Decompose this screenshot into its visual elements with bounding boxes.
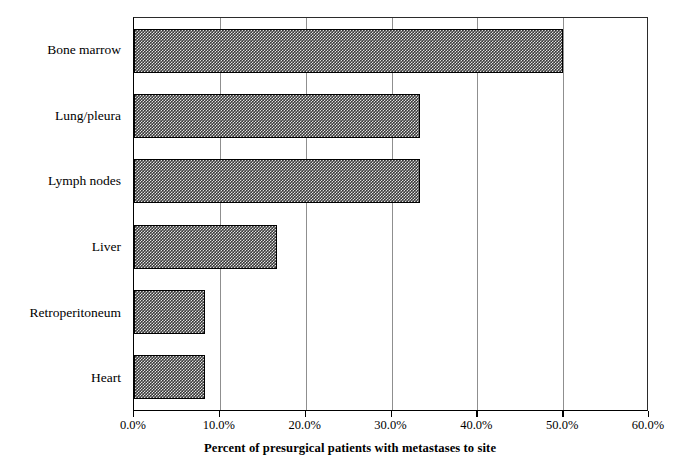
category-slot: Lymph nodes (0, 148, 128, 214)
category-label-retroperitoneum: Retroperitoneum (30, 306, 121, 320)
bar-liver[interactable] (134, 225, 277, 269)
axis-tick-label: 50.0% (546, 419, 578, 432)
category-label-heart: Heart (91, 371, 121, 385)
category-slot: Lung/pleura (0, 83, 128, 149)
axis-tick-label: 0.0% (120, 419, 146, 432)
category-slot: Bone marrow (0, 17, 128, 83)
category-label-lymph-nodes: Lymph nodes (48, 174, 121, 188)
axis-tick (219, 411, 220, 417)
axis-tick (476, 411, 477, 417)
axis-tick-label: 10.0% (203, 419, 235, 432)
bar-slot (134, 345, 647, 410)
bar-lung-pleura[interactable] (134, 94, 420, 138)
axis-tick (391, 411, 392, 417)
x-axis-title: Percent of presurgical patients with met… (0, 441, 700, 456)
bar-bone-marrow[interactable] (134, 29, 563, 73)
category-slot: Retroperitoneum (0, 280, 128, 346)
axis-tick-label: 40.0% (460, 419, 492, 432)
bar-lymph-nodes[interactable] (134, 159, 420, 203)
axis-tick-label: 30.0% (374, 419, 406, 432)
bar-chart: Bone marrow Lung/pleura Lymph nodes Live… (0, 0, 700, 459)
axis-tick (133, 411, 134, 417)
axis-tick-label: 20.0% (289, 419, 321, 432)
bar-heart[interactable] (134, 355, 205, 399)
axis-tick-label: 60.0% (632, 419, 664, 432)
category-slot: Liver (0, 214, 128, 280)
bar-slot (134, 279, 647, 344)
bar-slot (134, 83, 647, 148)
bar-slot (134, 18, 647, 83)
bar-retroperitoneum[interactable] (134, 290, 205, 334)
bar-slot (134, 149, 647, 214)
category-label-lung-pleura: Lung/pleura (55, 109, 121, 123)
category-label-liver: Liver (92, 240, 121, 254)
category-label-bone-marrow: Bone marrow (47, 43, 121, 57)
bars-layer (134, 18, 647, 410)
axis-tick (305, 411, 306, 417)
category-slot: Heart (0, 345, 128, 411)
axis-tick (562, 411, 563, 417)
axis-tick (648, 411, 649, 417)
plot-area (133, 17, 648, 411)
category-axis: Bone marrow Lung/pleura Lymph nodes Live… (0, 17, 128, 411)
bar-slot (134, 214, 647, 279)
